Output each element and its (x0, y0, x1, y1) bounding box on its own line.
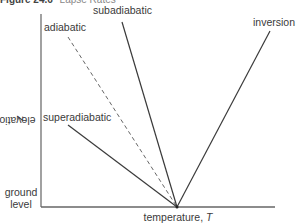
y-axis-text: elevation, (0, 115, 35, 127)
ground-label-line2: level (2, 198, 40, 210)
inversion-line (177, 31, 270, 207)
ground-label-line1: ground (2, 186, 40, 198)
label-subadiabatic: subadiabatic (93, 5, 152, 16)
origin-point (176, 206, 179, 209)
label-superadiabatic: superadiabatic (43, 112, 111, 123)
ground-level-label: ground level (2, 186, 40, 210)
superadiabatic-line (68, 125, 177, 207)
x-axis-var: T (206, 211, 212, 223)
label-adiabatic: adiabatic (44, 22, 86, 33)
subadiabatic-line (122, 22, 177, 207)
x-axis-label: temperature, T (144, 211, 213, 223)
label-inversion: inversion (253, 17, 295, 28)
x-axis-text: temperature, (144, 211, 206, 223)
